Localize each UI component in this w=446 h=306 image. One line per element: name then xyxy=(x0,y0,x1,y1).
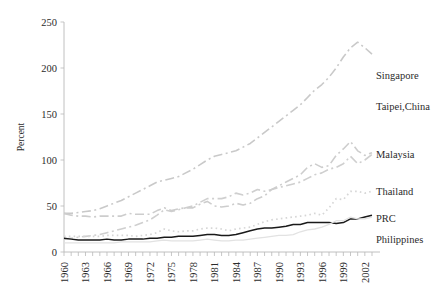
y-tick-label: 200 xyxy=(41,63,57,74)
x-tick-label: 1990 xyxy=(274,262,285,283)
y-tick-label: 0 xyxy=(52,247,57,258)
x-tick-label: 1975 xyxy=(166,262,177,283)
x-tick-label: 1999 xyxy=(338,262,349,283)
x-tick-label: 1978 xyxy=(188,262,199,283)
y-tick-label: 100 xyxy=(41,155,57,166)
y-tick-label: 250 xyxy=(41,17,57,28)
x-tick-label: 2002 xyxy=(360,262,371,283)
x-tick-label: 1981 xyxy=(209,262,220,283)
series-label-philippines: Philippines xyxy=(376,234,423,245)
series-label-prc: PRC xyxy=(376,213,396,224)
x-tick-label: 1972 xyxy=(145,262,156,283)
x-tick-label: 1960 xyxy=(59,262,70,283)
series-label-malaysia: Malaysia xyxy=(376,149,415,160)
series-line-prc xyxy=(64,215,372,240)
y-axis-title: Percent xyxy=(16,122,26,151)
series-label-thailand: Thailand xyxy=(376,186,414,197)
x-tick-label: 1987 xyxy=(252,262,263,283)
x-tick-label: 1984 xyxy=(231,261,242,283)
series-line-taipei-china xyxy=(64,154,372,239)
series-label-taipei-china: Taipei,China xyxy=(376,101,430,112)
x-tick-label: 1969 xyxy=(123,262,134,283)
series-line-singapore xyxy=(64,42,372,213)
series-label-singapore: Singapore xyxy=(376,70,419,81)
series-lines xyxy=(64,42,372,243)
x-tick-label: 1996 xyxy=(317,262,328,283)
series-labels: SingaporeTaipei,ChinaMalaysiaThailandPRC… xyxy=(376,70,430,245)
chart-container: 050100150200250 196019631966196919721975… xyxy=(0,0,446,306)
y-tick-label: 50 xyxy=(47,201,58,212)
y-axis: 050100150200250 xyxy=(41,17,64,258)
series-line-malaysia xyxy=(64,142,372,217)
line-chart: 050100150200250 196019631966196919721975… xyxy=(0,0,446,306)
y-tick-label: 150 xyxy=(41,109,57,120)
x-tick-label: 1963 xyxy=(80,262,91,283)
x-axis: 1960196319661969197219751978198119841987… xyxy=(59,252,380,283)
x-tick-label: 1966 xyxy=(102,262,113,283)
x-tick-label: 1993 xyxy=(295,262,306,283)
